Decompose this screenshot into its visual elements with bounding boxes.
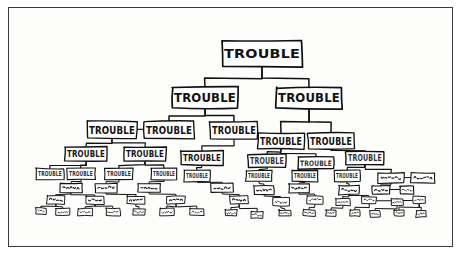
tree-node[interactable]	[60, 183, 83, 193]
tree-edge	[112, 139, 146, 148]
tree-node[interactable]: TROUBLE	[246, 170, 273, 181]
tree-node[interactable]: TROUBLE	[67, 168, 96, 180]
node-box	[416, 211, 427, 218]
tree-node[interactable]: TROUBLE	[184, 170, 210, 182]
node-label: TROUBLE	[212, 124, 256, 136]
tree-edge	[309, 109, 331, 134]
tree-node[interactable]	[160, 208, 175, 216]
tree-node[interactable]: TROUBLE	[124, 147, 167, 161]
tree-node[interactable]	[410, 173, 434, 184]
tree-edge	[81, 161, 86, 169]
node-label: TROUBLE	[224, 46, 300, 61]
node-label: TROUBLE	[186, 172, 208, 180]
node-label: TROUBLE	[310, 136, 352, 147]
tree-edge	[309, 204, 315, 210]
tree-node[interactable]: TROUBLE	[104, 168, 133, 180]
tree-node[interactable]	[394, 210, 404, 216]
tree-node[interactable]	[326, 210, 336, 217]
tree-node[interactable]	[46, 196, 64, 205]
tree-node[interactable]: TROUBLE	[292, 170, 318, 182]
tree-node[interactable]	[225, 210, 237, 216]
tree-node[interactable]: TROUBLE	[298, 157, 334, 170]
tree-edge	[56, 204, 63, 209]
node-label: TROUBLE	[260, 136, 302, 147]
tree-node[interactable]	[336, 198, 351, 205]
tree-node[interactable]	[138, 183, 161, 192]
tree-node[interactable]	[378, 173, 405, 184]
node-label: TROUBLE	[336, 172, 358, 180]
tree-edge	[349, 195, 369, 197]
tree-node[interactable]	[86, 196, 104, 205]
node-label: TROUBLE	[248, 172, 270, 180]
tree-node[interactable]	[133, 209, 146, 215]
tree-node[interactable]: TROUBLE	[172, 87, 238, 109]
tree-node[interactable]	[279, 210, 291, 216]
tree-node[interactable]	[36, 208, 47, 215]
tree-node[interactable]	[254, 185, 275, 195]
tree-node[interactable]: TROUBLE	[345, 151, 383, 164]
tree-node[interactable]: TROUBLE	[307, 133, 354, 150]
node-label: TROUBLE	[278, 90, 340, 105]
tree-node[interactable]	[307, 196, 323, 205]
tree-node[interactable]	[78, 208, 93, 216]
tree-node[interactable]	[370, 211, 381, 218]
tree-node[interactable]	[95, 183, 117, 193]
tree-edge	[119, 161, 145, 169]
tree-node[interactable]: TROUBLE	[151, 168, 177, 180]
tree-node[interactable]	[273, 197, 290, 206]
node-box	[350, 210, 360, 217]
tree-edge	[231, 204, 239, 210]
tree-edge	[419, 204, 421, 212]
tree-node[interactable]: TROUBLE	[35, 168, 64, 180]
tree-edge	[259, 182, 264, 186]
node-label: TROUBLE	[300, 159, 332, 168]
tree-node[interactable]: TROUBLE	[276, 87, 343, 109]
tree-node[interactable]	[413, 196, 426, 204]
tree-node[interactable]: TROUBLE	[222, 41, 303, 68]
tree-node[interactable]	[372, 186, 390, 195]
tree-node[interactable]	[416, 211, 427, 218]
tree-node[interactable]: TROUBLE	[257, 133, 304, 150]
tree-node[interactable]	[339, 185, 360, 195]
tree-edge	[205, 67, 262, 88]
tree-node[interactable]: TROUBLE	[180, 151, 223, 166]
node-box	[288, 184, 309, 193]
node-label: TROUBLE	[174, 90, 236, 105]
tree-node[interactable]	[288, 184, 309, 193]
tree-node[interactable]: TROUBLE	[334, 170, 360, 182]
tree-node[interactable]	[190, 208, 204, 216]
node-label: TROUBLE	[153, 170, 175, 178]
tree-node[interactable]	[56, 208, 70, 215]
tree-node[interactable]	[303, 209, 315, 216]
tree-node[interactable]: TROUBLE	[248, 154, 287, 167]
tree-edge	[202, 139, 234, 152]
node-box	[307, 196, 323, 205]
tree-node[interactable]: TROUBLE	[64, 147, 107, 162]
tree-node[interactable]	[127, 196, 145, 205]
tree-edge	[262, 67, 309, 88]
tree-node[interactable]: TROUBLE	[209, 121, 257, 139]
tree-node[interactable]	[400, 186, 414, 194]
tree-edge	[331, 206, 343, 211]
tree-node[interactable]	[350, 210, 360, 217]
tree-node[interactable]	[391, 199, 403, 206]
tree-node[interactable]: TROUBLE	[87, 121, 137, 139]
tree-node[interactable]: TROUBLE	[144, 121, 195, 139]
node-label: TROUBLE	[348, 154, 382, 163]
tree-edge	[136, 204, 139, 209]
tree-edge	[149, 193, 176, 197]
node-box	[36, 208, 47, 215]
tree-node[interactable]	[167, 196, 186, 204]
node-label: TROUBLE	[107, 170, 131, 178]
comic-panel-frame: TROUBLETROUBLETROUBLETROUBLETROUBLETROUB…	[8, 7, 453, 247]
tree-node[interactable]	[362, 197, 377, 204]
tree-node[interactable]	[211, 183, 234, 192]
tree-node[interactable]	[230, 196, 249, 204]
node-box	[251, 211, 263, 218]
tree-edge	[281, 109, 310, 134]
tree-node[interactable]	[106, 208, 121, 216]
node-label: TROUBLE	[67, 149, 105, 159]
tree-edge	[365, 165, 391, 174]
tree-edge	[205, 109, 234, 122]
tree-node[interactable]	[251, 211, 263, 218]
